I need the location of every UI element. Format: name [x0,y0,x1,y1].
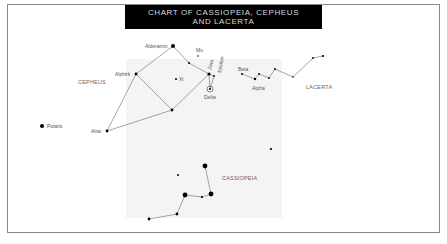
stars [40,44,324,220]
label-epsilon: Epsilon [216,56,225,73]
star-cepheus-iota [171,109,174,112]
label-delta: Delta [204,94,216,100]
star-alpha [254,78,256,80]
star-mu [197,55,199,57]
star-xi [175,78,177,80]
star-lacerta-4 [268,77,270,79]
star-beta [241,73,243,75]
star-cepheus-eta [188,62,190,64]
label-alderamin: Alderamin [145,43,168,49]
star-lacerta-5 [274,68,276,70]
star-alrai [106,130,109,133]
star-cassiopeia-1 [148,218,151,221]
label-mu: Mu [196,47,203,53]
label-cepheus: CEPHEUS [78,79,106,85]
star-alderamin [171,44,175,48]
cassiopeia-lines [149,166,211,219]
star-lacerta-8 [322,55,324,57]
star-cassiopeia-4 [201,196,203,198]
star-isolated-1 [177,174,179,176]
star-lacerta-3 [258,73,260,75]
label-alpha: Alpha [252,85,265,91]
star-epsilon [213,75,215,77]
lacerta-lines [242,56,323,79]
label-alrai: Alrai [91,128,101,134]
star-cassiopeia-5 [209,192,214,197]
label-cassiopeia: CASSIOPEIA [222,175,257,181]
label-beta: Beta [238,66,249,72]
star-zeta [207,72,210,75]
label-lacerta: LACERTA [306,84,332,90]
label-polaris: Polaris [47,123,63,129]
star-cassiopeia-2 [176,213,179,216]
star-isolated-2 [270,148,272,150]
star-lacerta-7 [312,57,314,59]
star-lacerta-6 [292,76,294,78]
label-zeta: Zeta [206,59,214,70]
cepheus-lines [107,46,214,131]
label-xi: Xi [179,76,183,82]
star-delta [209,88,211,90]
star-chart: Polaris Alrai Alphirk Alderamin Xi Mu Ze… [0,0,447,244]
label-alphirk: Alphirk [115,71,131,77]
star-alphirk [135,73,138,76]
star-cassiopeia-6 [203,164,208,169]
star-polaris [40,124,44,128]
star-cassiopeia-3 [183,193,188,198]
